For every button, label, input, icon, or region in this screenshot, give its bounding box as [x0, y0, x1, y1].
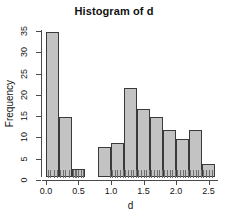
- x-axis-tick: [111, 181, 112, 185]
- rug-mark: [125, 170, 126, 178]
- y-axis-title-text: Frequency: [4, 62, 15, 146]
- rug-mark: [146, 170, 147, 178]
- rug-mark: [144, 170, 145, 178]
- plot-area: [42, 28, 219, 177]
- rug-mark: [159, 170, 160, 178]
- rug-mark: [157, 170, 158, 178]
- rug-mark: [117, 170, 118, 178]
- x-axis-title: d: [42, 200, 219, 211]
- rug-mark: [69, 170, 70, 178]
- rug-mark: [177, 170, 178, 178]
- y-axis-tick: [36, 52, 41, 53]
- rug-mark: [110, 170, 111, 178]
- histogram-plot: Histogram of d 05101520253035 0.00.51.01…: [0, 0, 228, 222]
- rug-mark: [65, 170, 66, 178]
- y-axis-title: Frequency: [2, 62, 16, 146]
- rug-mark: [75, 170, 76, 178]
- rug-mark: [180, 170, 181, 178]
- histogram-bar: [59, 117, 72, 177]
- rug-mark: [131, 170, 132, 178]
- rug-mark: [201, 170, 202, 178]
- y-axis-tick-label: 15: [13, 110, 35, 122]
- rug-mark: [164, 170, 165, 178]
- x-axis-tick: [144, 181, 145, 185]
- rug-mark: [203, 170, 204, 178]
- x-axis-tick: [46, 181, 47, 185]
- rug-mark: [162, 170, 163, 178]
- x-axis-tick: [78, 181, 79, 185]
- rug-mark: [175, 170, 176, 178]
- rug-mark: [83, 170, 84, 178]
- y-axis-tick: [36, 180, 41, 181]
- rug-mark: [73, 170, 74, 178]
- rug-mark: [54, 170, 55, 178]
- x-axis-tick: [209, 181, 210, 185]
- rug-mark: [123, 170, 124, 178]
- rug-mark: [185, 170, 186, 178]
- rug-mark: [149, 170, 150, 178]
- histogram-bar: [137, 109, 150, 177]
- x-axis-tick: [176, 181, 177, 185]
- y-axis-tick-label: 25: [13, 68, 35, 80]
- rug-mark: [63, 170, 64, 178]
- x-axis-line: [42, 180, 218, 181]
- rug-mark: [112, 170, 113, 178]
- rug-mark: [190, 170, 191, 178]
- y-axis-tick-label: 5: [13, 153, 35, 165]
- rug-mark: [170, 170, 171, 178]
- chart-title: Histogram of d: [0, 5, 228, 17]
- rug-mark: [167, 170, 168, 178]
- rug-mark: [120, 170, 121, 178]
- x-axis-tick-label: 0.0: [33, 186, 59, 196]
- x-axis-tick-label: 2.5: [196, 186, 222, 196]
- rug-mark: [151, 170, 152, 178]
- rug-mark: [50, 170, 51, 178]
- rug-mark: [48, 170, 49, 178]
- rug-mark: [78, 170, 79, 178]
- rug-mark: [188, 170, 189, 178]
- y-axis-tick: [36, 95, 41, 96]
- y-axis-tick-label: 20: [13, 89, 35, 101]
- histogram-bar: [150, 117, 163, 177]
- rug-mark: [154, 170, 155, 178]
- rug-mark: [60, 170, 61, 178]
- rug-mark: [138, 170, 139, 178]
- rug-mark: [209, 170, 210, 178]
- rug-mark: [212, 170, 213, 178]
- rug-mark: [136, 170, 137, 178]
- y-axis-tick-label: 0: [13, 174, 35, 186]
- x-axis-tick-label: 0.5: [65, 186, 91, 196]
- y-axis-tick-label: 10: [13, 131, 35, 143]
- rug-mark: [198, 170, 199, 178]
- y-axis-tick: [36, 159, 41, 160]
- rug-plot: [42, 170, 219, 178]
- y-axis-tick: [36, 31, 41, 32]
- y-axis-tick: [36, 116, 41, 117]
- y-axis-line: [41, 30, 42, 177]
- rug-mark: [196, 170, 197, 178]
- rug-mark: [133, 170, 134, 178]
- y-axis-tick-label: 30: [13, 46, 35, 58]
- x-axis-tick-label: 1.5: [131, 186, 157, 196]
- rug-mark: [141, 170, 142, 178]
- rug-mark: [76, 170, 77, 178]
- rug-mark: [193, 170, 194, 178]
- x-axis-tick-label: 2.0: [163, 186, 189, 196]
- rug-mark: [128, 170, 129, 178]
- y-axis-tick: [36, 137, 41, 138]
- y-axis-tick-label: 35: [13, 25, 35, 37]
- rug-mark: [172, 170, 173, 178]
- rug-mark: [183, 170, 184, 178]
- rug-mark: [81, 170, 82, 178]
- rug-mark: [206, 170, 207, 178]
- histogram-bar: [124, 88, 137, 177]
- rug-mark: [57, 170, 58, 178]
- y-axis-tick: [36, 74, 41, 75]
- rug-mark: [115, 170, 116, 178]
- x-axis-tick-label: 1.0: [98, 186, 124, 196]
- histogram-bar: [46, 32, 59, 177]
